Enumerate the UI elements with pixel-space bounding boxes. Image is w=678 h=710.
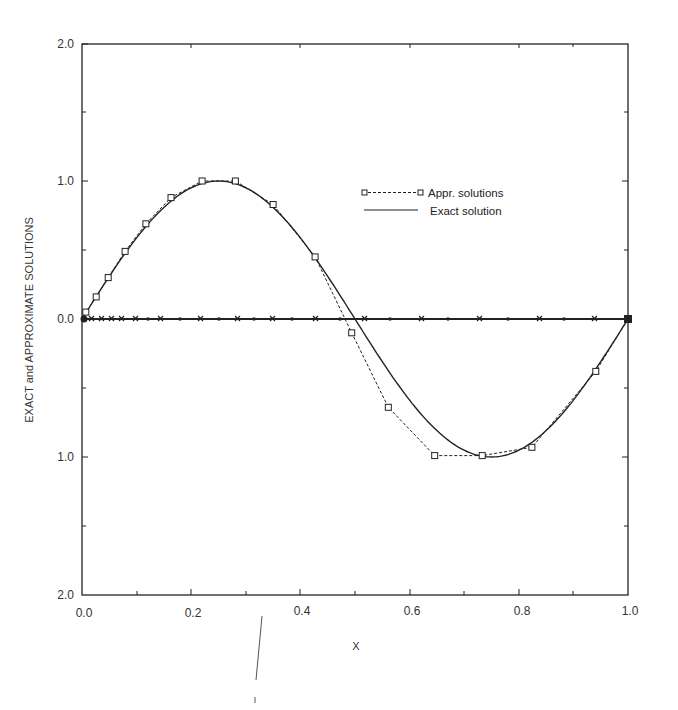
y-axis-title: EXACT and APPROXIMATE SOLUTIONS: [23, 217, 35, 423]
approx-marker: [385, 404, 391, 410]
y-tick-label: 1.0: [57, 174, 74, 188]
legend-item-exact: Exact solution: [364, 205, 502, 217]
scan-artifact-marks: [255, 616, 262, 703]
legend-label-exact: Exact solution: [430, 205, 502, 217]
chart-canvas: 2.0 1.0 0.0 1.0 2.0 0.0 0.2 0.4 0.6 0.8 …: [0, 0, 678, 710]
y-tick-label: 2.0: [57, 37, 74, 51]
approx-marker: [83, 309, 89, 315]
y-tick-label: 0.0: [57, 312, 74, 326]
y-tick-label: 1.0: [57, 450, 74, 464]
x-tick-label: 1.0: [622, 604, 639, 618]
x-axis-title: X: [352, 640, 360, 652]
approx-marker: [122, 248, 128, 254]
y-axis: [82, 44, 628, 526]
x-tick-label: 0.8: [514, 604, 531, 618]
x-tick-label: 0.0: [76, 606, 93, 620]
approx-marker: [168, 195, 174, 201]
x-tick-label: 0.4: [294, 604, 311, 618]
approx-marker: [312, 254, 318, 260]
approx-marker: [232, 178, 238, 184]
legend-label-appr: Appr. solutions: [428, 187, 504, 199]
approx-marker: [143, 221, 149, 227]
approx-marker: [199, 178, 205, 184]
approx-marker: [93, 294, 99, 300]
y-tick-labels: 2.0 1.0 0.0 1.0 2.0: [57, 37, 74, 602]
approx-marker: [529, 444, 535, 450]
approx-marker: [105, 275, 111, 281]
approx-marker: [593, 368, 599, 374]
approx-marker: [270, 202, 276, 208]
approx-marker: [432, 453, 438, 459]
x-tick-labels: 0.0 0.2 0.4 0.6 0.8 1.0: [76, 604, 639, 620]
y-tick-label: 2.0: [57, 588, 74, 602]
approx-marker: [349, 330, 355, 336]
approx-marker: [479, 453, 485, 459]
x-tick-label: 0.2: [185, 606, 202, 620]
x-tick-label: 0.6: [404, 604, 421, 618]
legend: Appr. solutions Exact solution: [362, 187, 504, 217]
legend-item-appr: Appr. solutions: [362, 187, 504, 199]
